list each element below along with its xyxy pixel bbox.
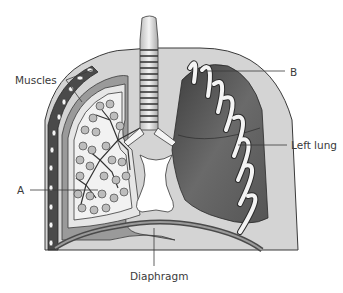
label-muscles: Muscles [15,74,57,86]
label-b: B [290,66,297,78]
label-left-lung: Left lung [291,139,337,151]
label-a: A [17,184,24,196]
label-diaphragm: Diaphragm [130,270,188,282]
